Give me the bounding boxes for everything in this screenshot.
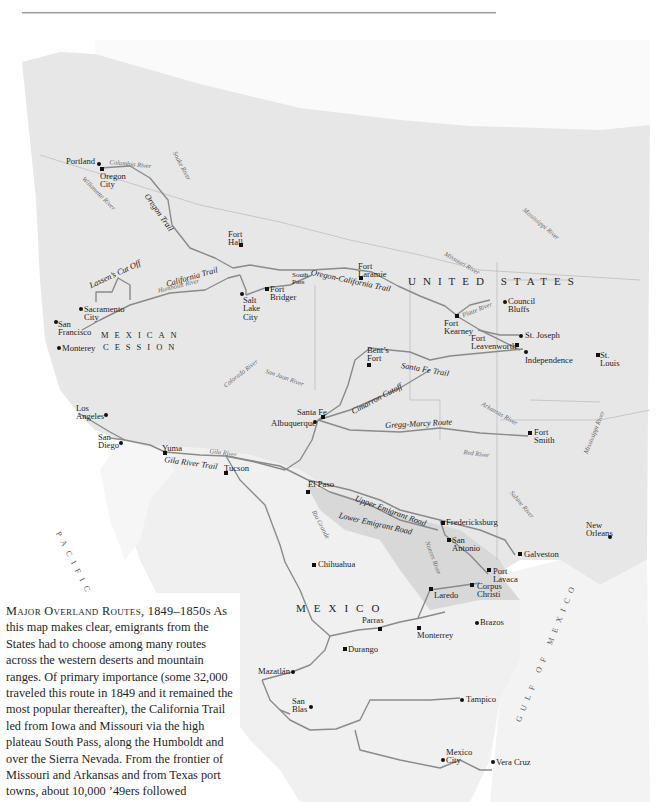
region-united-states: UNITED STATES: [408, 275, 581, 287]
caption-title: Major Overland Routes, 1849–1850s: [6, 604, 211, 618]
label-oregon-city: Oregon City: [100, 172, 132, 189]
label-st-louis: St. Louis: [600, 351, 622, 368]
label-corpus-christi: Corpus Christi: [477, 582, 505, 599]
label-fort-smith: Fort Smith: [534, 428, 560, 445]
marker-brazos: [475, 621, 479, 625]
marker-galveston: [518, 552, 522, 556]
label-tampico: Tampico: [466, 695, 496, 703]
label-los-angeles: Los Angeles: [76, 404, 104, 421]
label-chihuahua: Chihuahua: [318, 560, 355, 568]
marker-parras: [378, 627, 382, 631]
label-fort-leavenworth: Fort Leavenworth: [471, 334, 519, 351]
marker-fredericksburg: [441, 521, 445, 525]
marker-port-lavaca: [487, 568, 491, 572]
map-caption: Major Overland Routes, 1849–1850s As thi…: [0, 593, 240, 802]
marker-portland: [97, 162, 101, 166]
label-el-paso: El Paso: [308, 480, 334, 488]
marker-st-joseph: [519, 334, 523, 338]
label-monterrey: Monterrey: [417, 631, 453, 639]
label-fredericksburg: Fredericksburg: [446, 518, 498, 526]
region-mexican-cession-2: CESSION: [103, 342, 180, 352]
label-bents-fort: Bent’s Fort: [367, 346, 393, 363]
label-salt-lake-city: Salt Lake City: [243, 296, 263, 321]
marker-monterey: [57, 346, 61, 350]
marker-mexico-city: [441, 758, 445, 762]
label-tucson: Tucson: [224, 464, 249, 472]
marker-bents-fort: [367, 363, 371, 367]
marker-council-bluffs: [503, 300, 507, 304]
label-san-blas: San Blas: [292, 697, 310, 714]
label-council-bluffs: Council Bluffs: [508, 297, 546, 314]
marker-fort-smith: [528, 431, 532, 435]
label-fort-laramie: Fort Laramie: [358, 262, 396, 279]
label-new-orleans: New Orleans: [586, 521, 614, 538]
marker-fort-bridger: [265, 287, 269, 291]
marker-mazatlan: [291, 670, 295, 674]
marker-san-antonio: [447, 538, 451, 542]
marker-durango: [343, 647, 347, 651]
marker-sacramento: [79, 307, 83, 311]
label-st-joseph: St. Joseph: [525, 331, 560, 339]
marker-los-angeles: [104, 413, 108, 417]
region-mexican-cession-1: MEXICAN: [101, 330, 183, 340]
label-independence: Independence: [525, 356, 573, 364]
marker-corpus-christi: [470, 583, 474, 587]
label-monterey: Monterey: [62, 344, 95, 352]
label-mexico-city: Mexico City: [446, 748, 476, 765]
label-santa-fe: Santa Fe: [297, 408, 327, 416]
label-fort-bridger: Fort Bridger: [270, 285, 300, 302]
marker-el-paso: [306, 490, 310, 494]
marker-chihuahua: [312, 563, 316, 567]
caption-text: Major Overland Routes, 1849–1850s As thi…: [0, 593, 238, 800]
label-san-francisco: San Francisco: [58, 320, 100, 337]
label-san-diego: San Diego: [98, 433, 118, 450]
label-vera-cruz: Vera Cruz: [496, 758, 531, 766]
label-san-antonio: San Antonio: [452, 536, 482, 553]
caption-body: As this map makes clear, emigrants from …: [6, 604, 233, 798]
label-durango: Durango: [348, 645, 378, 653]
label-yuma: Yuma: [162, 444, 182, 452]
label-laredo: Laredo: [434, 591, 458, 599]
marker-independence: [524, 350, 528, 354]
label-parras: Parras: [362, 616, 383, 624]
label-albuquerque: Albuquerque: [271, 419, 316, 427]
marker-vera-cruz: [491, 760, 495, 764]
label-mazatlan: Mazatlán: [258, 667, 290, 675]
marker-tampico: [460, 698, 464, 702]
marker-san-diego: [119, 441, 123, 445]
marker-laredo: [429, 587, 433, 591]
region-mexico: MEXICO: [296, 602, 387, 614]
label-fort-hall: Fort Hall: [228, 230, 250, 247]
label-galveston: Galveston: [524, 550, 559, 558]
label-portland: Portland: [66, 157, 95, 165]
label-brazos: Brazos: [480, 618, 504, 626]
